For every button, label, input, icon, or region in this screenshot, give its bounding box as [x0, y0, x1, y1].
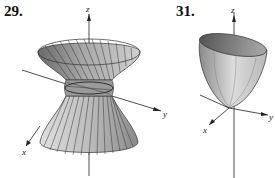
y-axis-label: y [162, 109, 167, 119]
y-arrow-icon-31 [261, 112, 268, 116]
y-arrow-icon [153, 107, 161, 111]
x-arrow-icon [26, 140, 31, 146]
hyperboloid-figure: z [21, 4, 167, 176]
x-arrow-icon-31 [209, 119, 215, 125]
paraboloid-figure: z x y [198, 5, 273, 178]
x-axis-label-31: x [202, 125, 207, 135]
z-axis-label-31: z [230, 5, 235, 15]
z-arrow-icon-31 [232, 15, 236, 22]
x-axis-label: x [21, 147, 26, 157]
z-arrow-icon [87, 14, 91, 21]
hyperboloid-lower-surface [40, 96, 138, 153]
y-axis-label-31: y [268, 112, 273, 122]
z-axis-label: z [85, 4, 90, 14]
figures-canvas: z [0, 0, 275, 178]
